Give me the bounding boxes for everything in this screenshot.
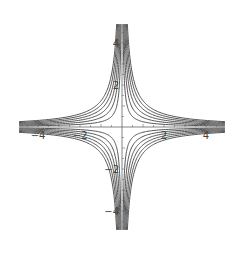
hyperbola-curve	[123, 128, 225, 230]
y-tick-label: −4	[104, 206, 119, 217]
hyperbola-curve	[126, 131, 225, 230]
y-tick-label: −2	[104, 164, 119, 175]
y-tick-label: 4	[113, 38, 119, 49]
hyperbola-curve	[19, 24, 117, 122]
hyperbola-curve	[126, 24, 225, 123]
hyperbola-curve	[19, 24, 121, 126]
hyperbola-curve	[123, 24, 225, 126]
x-tick-label: 4	[203, 130, 209, 141]
x-tick-label: −2	[73, 130, 88, 141]
hyperbola-curve	[125, 24, 225, 124]
hyperbola-curve	[19, 24, 118, 123]
hyperbola-curve	[127, 24, 225, 122]
hyperbola-curve	[19, 24, 119, 124]
hyperbola-curve	[19, 132, 117, 230]
x-tick-label: −4	[31, 130, 46, 141]
y-tick-label: 2	[113, 80, 119, 91]
axes	[19, 24, 225, 230]
x-tick-label: 2	[161, 130, 167, 141]
hyperbola-curve	[125, 130, 225, 230]
hyperbola-curve	[127, 132, 225, 230]
contour-plot: −4−22442−2−4	[0, 0, 243, 256]
